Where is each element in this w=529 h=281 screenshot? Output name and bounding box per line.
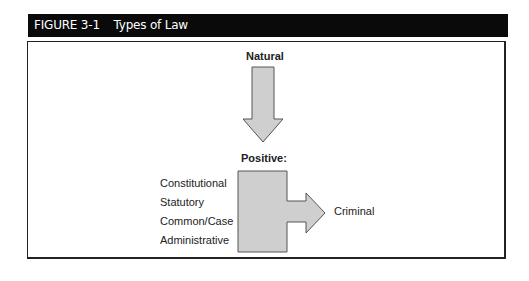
source-administrative: Administrative — [160, 234, 229, 246]
node-natural: Natural — [246, 50, 284, 62]
node-criminal: Criminal — [334, 205, 374, 217]
down-arrow-icon — [243, 67, 283, 142]
merge-arrow-icon — [238, 171, 325, 252]
source-constitutional: Constitutional — [160, 177, 227, 189]
diagram-shapes — [0, 0, 529, 281]
node-positive: Positive: — [241, 152, 287, 164]
source-common-case: Common/Case — [160, 215, 233, 227]
source-statutory: Statutory — [160, 196, 204, 208]
